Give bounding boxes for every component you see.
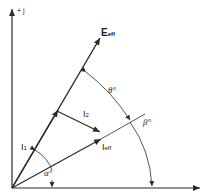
e-eff-label-main: E (101, 27, 108, 38)
e-eff-label-sub: eff (108, 31, 115, 37)
theta-arc (86, 72, 130, 120)
beta-arc (130, 122, 152, 186)
i1-label-sub: 1 (24, 145, 27, 151)
alpha-label: α° (44, 169, 52, 178)
i1-label: I1 (21, 143, 27, 152)
beta-upper-label: β° (143, 118, 151, 127)
theta-label: θ° (108, 86, 116, 95)
i2-label: I2 (83, 110, 89, 119)
i-eff-label-sub: eff (105, 145, 112, 151)
vertical-axis-label: + j (17, 7, 25, 14)
i-eff-label: Ieff (102, 143, 111, 152)
i2-vector (57, 111, 100, 132)
e-eff-label: Eeff (101, 28, 115, 38)
i2-label-sub: 2 (86, 112, 89, 118)
